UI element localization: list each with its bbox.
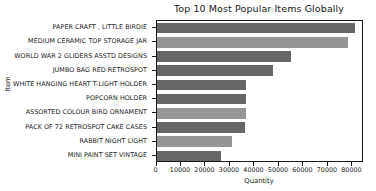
bar xyxy=(157,94,246,105)
chart-figure: Top 10 Most Popular Items Globally Item … xyxy=(0,0,376,191)
x-axis-tick-mark xyxy=(229,162,230,166)
bar xyxy=(157,51,292,62)
y-axis-tick-label: MINI PAINT SET VINTAGE xyxy=(68,151,147,159)
x-axis-tick-label: 10000 xyxy=(170,166,190,174)
x-axis-tick-mark xyxy=(204,162,205,166)
y-axis-tick-mark xyxy=(152,41,156,42)
y-axis-tick-mark xyxy=(152,84,156,85)
y-axis-tick-mark xyxy=(152,70,156,71)
y-axis-tick-mark xyxy=(152,27,156,28)
x-axis-tick-mark xyxy=(351,162,352,166)
chart-title: Top 10 Most Popular Items Globally xyxy=(155,3,363,14)
y-axis-tick-label: WHITE HANGING HEART T-LIGHT HOLDER xyxy=(13,80,147,88)
bars-layer xyxy=(157,21,362,161)
y-axis-tick-mark xyxy=(152,155,156,156)
bar xyxy=(157,151,222,162)
plot-area xyxy=(156,20,363,162)
x-axis-title: Quantity xyxy=(156,177,363,185)
bar xyxy=(157,23,355,34)
x-axis-tick-mark xyxy=(327,162,328,166)
y-axis-tick-label: PAPER CRAFT , LITTLE BIRDIE xyxy=(53,23,147,31)
y-axis-tick-mark xyxy=(152,141,156,142)
y-axis-tick-label: POPCORN HOLDER xyxy=(86,94,147,102)
x-axis-tick-mark xyxy=(302,162,303,166)
x-axis-tick-label: 70000 xyxy=(317,166,337,174)
x-axis-tick-label: 50000 xyxy=(268,166,288,174)
x-axis-tick-mark xyxy=(156,162,157,166)
x-axis-tick-mark xyxy=(253,162,254,166)
bar xyxy=(157,37,348,48)
y-axis-tick-mark xyxy=(152,56,156,57)
x-axis-tick-mark xyxy=(180,162,181,166)
y-axis-tick-mark xyxy=(152,112,156,113)
x-axis-tick-label: 80000 xyxy=(341,166,361,174)
y-axis-tick-label: PACK OF 72 RETROSPOT CAKE CASES xyxy=(25,123,147,131)
x-axis-tick-label: 0 xyxy=(153,166,157,174)
x-axis-tick-label: 20000 xyxy=(194,166,214,174)
y-axis-tick-label: JUMBO BAG RED RETROSPOT xyxy=(53,66,147,74)
bar xyxy=(157,65,273,76)
y-axis-tick-label: RABBIT NIGHT LIGHT xyxy=(79,137,147,145)
y-axis-tick-mark xyxy=(152,127,156,128)
x-axis-tick-label: 60000 xyxy=(292,166,312,174)
y-axis-tick-label: WORLD WAR 2 GLIDERS ASSTD DESIGNS xyxy=(14,52,147,60)
bar xyxy=(157,108,246,119)
x-axis-tick-label: 40000 xyxy=(243,166,263,174)
y-axis-tick-mark xyxy=(152,98,156,99)
x-axis-tick-label: 30000 xyxy=(219,166,239,174)
bar xyxy=(157,136,232,147)
bar xyxy=(157,80,247,91)
y-axis-tick-label: MEDIUM CERAMIC TOP STORAGE JAR xyxy=(28,37,147,45)
y-axis-tick-labels: PAPER CRAFT , LITTLE BIRDIEMEDIUM CERAMI… xyxy=(0,20,152,162)
x-axis-tick-mark xyxy=(278,162,279,166)
y-axis-tick-label: ASSORTED COLOUR BIRD ORNAMENT xyxy=(26,108,147,116)
bar xyxy=(157,122,245,133)
